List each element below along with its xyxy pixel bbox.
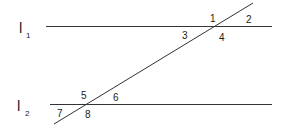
angle-3: 3 bbox=[182, 30, 188, 41]
diagram-canvas: l 1 l 2 1 2 3 4 5 6 7 8 bbox=[0, 0, 292, 133]
angle-5: 5 bbox=[81, 90, 87, 101]
angle-8: 8 bbox=[85, 109, 91, 120]
angle-7: 7 bbox=[57, 108, 63, 119]
label-l2-subscript: 2 bbox=[25, 109, 30, 118]
label-l1-subscript: 1 bbox=[26, 31, 31, 40]
angle-2: 2 bbox=[246, 14, 252, 25]
angle-6: 6 bbox=[113, 92, 119, 103]
angle-4: 4 bbox=[219, 32, 225, 43]
angle-1: 1 bbox=[210, 13, 216, 24]
label-l2: l bbox=[17, 97, 20, 114]
transversal bbox=[54, 3, 253, 124]
label-l1: l bbox=[19, 19, 22, 36]
